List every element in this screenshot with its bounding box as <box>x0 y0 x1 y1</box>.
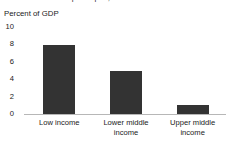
category-label-line: income <box>159 128 226 138</box>
category-label: Upper middleincome <box>159 118 226 137</box>
x-axis-category-labels: Low incomeLower middleincomeUpper middle… <box>0 0 230 148</box>
category-label: Low income <box>26 118 93 128</box>
category-label: Lower middleincome <box>93 118 160 137</box>
category-label-line: Upper middle <box>159 118 226 128</box>
plot-area: 0246810 Low incomeLower middleincomeUppe… <box>0 0 230 148</box>
bar-chart-figure: Net ODA received per capita, 2002-03 Per… <box>0 0 230 148</box>
category-label-line: Low income <box>26 118 93 128</box>
category-label-line: Lower middle <box>93 118 160 128</box>
category-label-line: income <box>93 128 160 138</box>
